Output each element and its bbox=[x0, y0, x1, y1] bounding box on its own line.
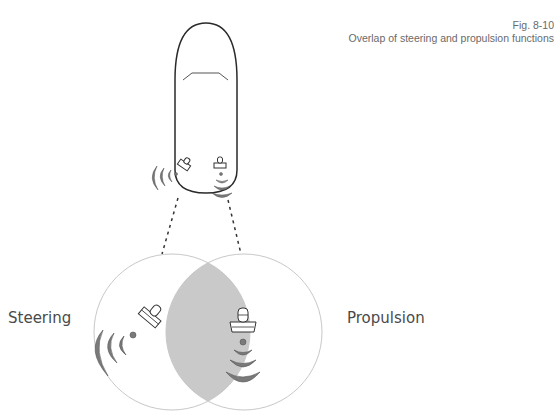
leader-line-propulsion bbox=[228, 200, 241, 254]
azimuth-thruster-icon bbox=[138, 299, 167, 328]
leader-line-steering bbox=[162, 198, 178, 254]
thrust-wave-icon bbox=[152, 166, 177, 190]
diagram bbox=[0, 0, 558, 415]
thrust-wave-icon bbox=[95, 330, 136, 376]
